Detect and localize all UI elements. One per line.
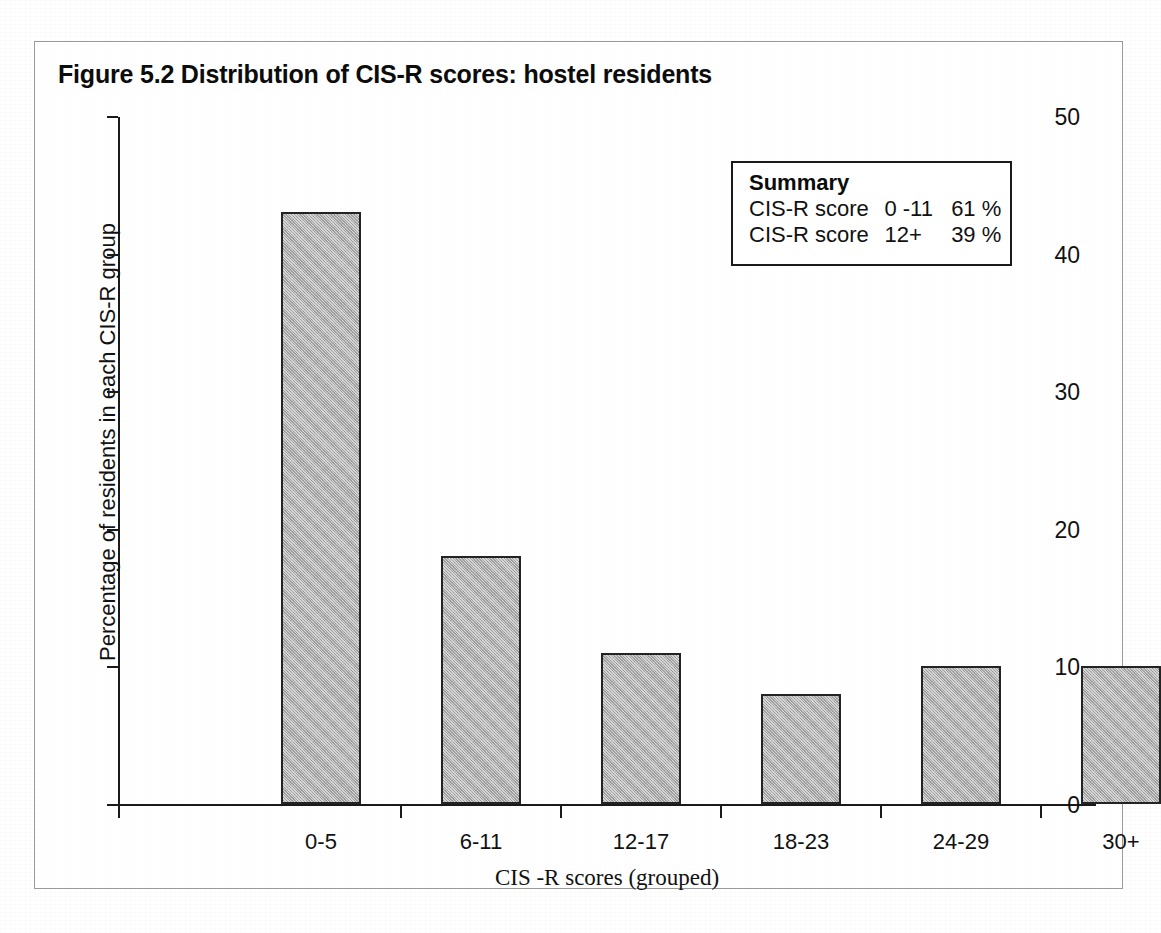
bar-18-23 (761, 694, 841, 804)
bar-24-29 (921, 666, 1001, 804)
x-tick-label-18-23: 18-23 (773, 829, 829, 855)
y-tick-label-20: 20 (1054, 516, 1080, 543)
summary-row: CIS-R score0 -1161 % (749, 196, 1010, 222)
summary-row-range: 12+ (884, 222, 951, 248)
x-tick-origin (118, 806, 120, 818)
summary-box: Summary CIS-R score0 -1161 %CIS-R score1… (731, 161, 1012, 266)
summary-row-value: 61 % (951, 196, 1010, 222)
y-tick-20 (107, 529, 118, 531)
bar-0-5 (281, 212, 361, 804)
y-tick-0 (107, 804, 118, 806)
y-tick-label-50: 50 (1054, 104, 1080, 131)
x-axis-line (118, 804, 1096, 806)
bar-30+ (1081, 666, 1161, 804)
summary-heading: Summary (749, 170, 1010, 196)
y-tick-50 (107, 116, 118, 118)
x-tick-label-6-11: 6-11 (460, 829, 502, 855)
x-tick-label-0-5: 0-5 (305, 829, 337, 855)
summary-rows: CIS-R score0 -1161 %CIS-R score12+39 % (749, 196, 1010, 249)
figure-page: Figure 5.2 Distribution of CIS-R scores:… (0, 0, 1161, 933)
summary-row-range: 0 -11 (884, 196, 951, 222)
y-tick-label-0: 0 (1067, 792, 1080, 819)
x-tick-1 (560, 806, 562, 818)
x-tick-label-30+: 30+ (1102, 829, 1139, 855)
y-tick-30 (107, 391, 118, 393)
x-tick-label-24-29: 24-29 (933, 829, 989, 855)
summary-row-label: CIS-R score (749, 196, 884, 222)
summary-row-value: 39 % (951, 222, 1010, 248)
x-tick-0 (400, 806, 402, 818)
y-axis-title: Percentage of residents in each CIS-R gr… (95, 162, 121, 722)
x-tick-3 (880, 806, 882, 818)
bar-12-17 (601, 653, 681, 804)
summary-row-label: CIS-R score (749, 222, 884, 248)
x-tick-label-12-17: 12-17 (613, 829, 669, 855)
x-axis-title: CIS -R scores (grouped) (118, 865, 1096, 891)
y-tick-label-30: 30 (1054, 379, 1080, 406)
bar-6-11 (441, 556, 521, 804)
x-tick-4 (1040, 806, 1042, 818)
y-tick-40 (107, 254, 118, 256)
x-tick-2 (720, 806, 722, 818)
y-tick-10 (107, 666, 118, 668)
y-tick-label-10: 10 (1054, 654, 1080, 681)
summary-row: CIS-R score12+39 % (749, 222, 1010, 248)
figure-title: Figure 5.2 Distribution of CIS-R scores:… (58, 60, 712, 89)
y-tick-label-40: 40 (1054, 241, 1080, 268)
